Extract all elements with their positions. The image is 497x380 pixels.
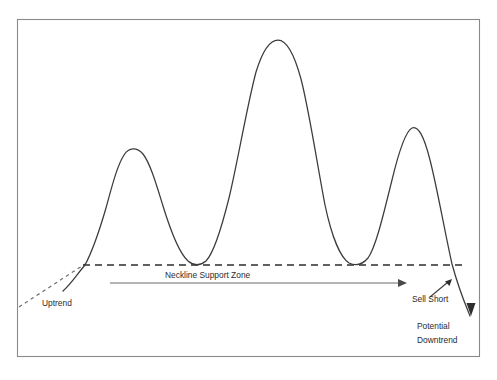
pattern-canvas: Uptrend Neckline Support Zone Sell Short… bbox=[0, 0, 497, 380]
head-and-shoulders-diagram: Uptrend Neckline Support Zone Sell Short… bbox=[0, 0, 497, 380]
uptrend-label: Uptrend bbox=[42, 298, 72, 308]
potential-label: Potential bbox=[417, 321, 450, 331]
downtrend-label: Downtrend bbox=[417, 335, 458, 345]
neckline-support-zone-label: Neckline Support Zone bbox=[165, 270, 251, 280]
sell-short-label: Sell Short bbox=[412, 294, 449, 304]
diagram-frame bbox=[18, 20, 480, 357]
